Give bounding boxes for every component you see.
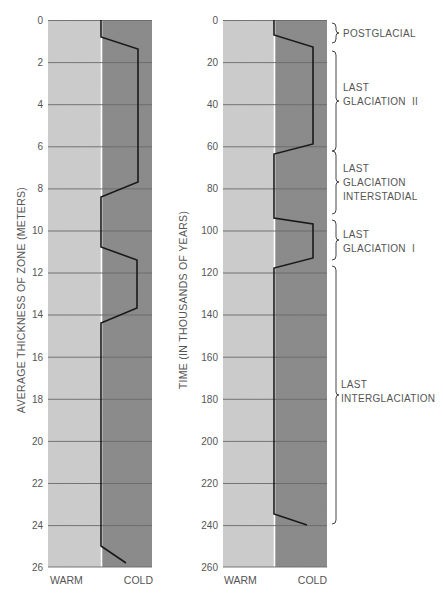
left-tick: 16 (32, 352, 44, 363)
zone-label-lg2-line1: LAST (343, 82, 369, 93)
left-tick: 24 (32, 520, 44, 531)
left-y-ticks: 0 2 4 6 8 10 12 14 16 18 20 22 24 26 (32, 15, 44, 573)
right-tick: 40 (207, 99, 219, 110)
left-x-label-warm: WARM (50, 574, 83, 586)
right-tick: 0 (212, 15, 218, 26)
right-tick: 220 (201, 478, 218, 489)
left-tick: 22 (32, 478, 44, 489)
right-tick: 60 (207, 141, 219, 152)
right-x-label-cold: COLD (298, 574, 328, 586)
right-tick: 80 (207, 183, 219, 194)
right-tick: 180 (201, 394, 218, 405)
bracket-last-interglaciation (332, 266, 339, 524)
right-cold-band (275, 20, 327, 567)
right-tick: 100 (201, 225, 218, 236)
left-tick: 0 (37, 15, 43, 26)
zone-brackets (332, 23, 339, 524)
right-tick: 260 (201, 562, 218, 573)
bracket-last-glaciation-ii (332, 51, 339, 151)
bracket-last-glaciation-i (332, 220, 339, 260)
right-tick: 140 (201, 309, 218, 320)
figure: 0 2 4 6 8 10 12 14 16 18 20 22 24 26 AVE… (0, 0, 443, 600)
left-warm-band (48, 20, 101, 567)
right-warm-band (223, 20, 274, 567)
right-y-ticks: 0 20 40 60 80 100 120 140 160 180 200 22… (201, 15, 218, 573)
zone-label-lg1-line2: GLACIATION I (343, 243, 415, 254)
zone-label-inter-line3: INTERSTADIAL (343, 191, 418, 202)
left-chart: 0 2 4 6 8 10 12 14 16 18 20 22 24 26 AVE… (15, 15, 153, 586)
right-tick: 20 (207, 57, 219, 68)
zone-label-inter-line2: GLACIATION (343, 177, 406, 188)
left-tick: 8 (37, 183, 43, 194)
zone-labels: POSTGLACIAL LAST GLACIATION II LAST GLAC… (341, 28, 435, 404)
zone-label-postglacial: POSTGLACIAL (343, 28, 416, 39)
right-tick: 240 (201, 520, 218, 531)
zone-label-lg1-line1: LAST (343, 229, 369, 240)
right-tick: 160 (201, 352, 218, 363)
bracket-postglacial (332, 23, 339, 43)
left-tick: 6 (37, 141, 43, 152)
left-tick: 18 (32, 394, 44, 405)
left-tick: 26 (32, 562, 44, 573)
right-x-label-warm: WARM (224, 574, 257, 586)
right-tick: 200 (201, 436, 218, 447)
right-chart: 0 20 40 60 80 100 120 140 160 180 200 22… (177, 15, 435, 586)
bracket-interstadial (332, 151, 339, 214)
zone-label-lg2-line2: GLACIATION II (343, 96, 418, 107)
right-tick: 120 (201, 267, 218, 278)
left-tick: 10 (32, 225, 44, 236)
left-tick: 14 (32, 309, 44, 320)
left-tick: 12 (32, 267, 44, 278)
left-cold-band (102, 20, 152, 567)
zone-label-inter-line1: LAST (343, 163, 369, 174)
left-y-axis-label: AVERAGE THICKNESS OF ZONE (METERS) (15, 187, 27, 413)
zone-label-ig-line1: LAST (341, 379, 367, 390)
zone-label-ig-line2: INTERGLACIATION (341, 393, 435, 404)
left-tick: 20 (32, 436, 44, 447)
right-y-axis-label: TIME (IN THOUSANDS OF YEARS) (177, 211, 189, 389)
left-tick: 2 (37, 57, 43, 68)
left-x-label-cold: COLD (124, 574, 154, 586)
left-tick: 4 (37, 99, 43, 110)
